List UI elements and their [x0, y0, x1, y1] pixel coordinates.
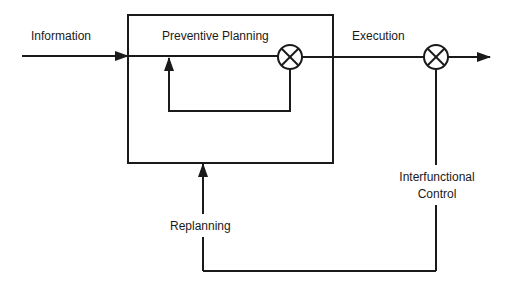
interfunctional-control-label: Interfunctional Control [398, 170, 476, 201]
replanning-label: Replanning [170, 219, 231, 233]
inner-feedback-loop [169, 58, 290, 111]
summing-junction-1-icon [278, 45, 302, 69]
execution-label: Execution [352, 29, 405, 43]
information-label: Information [31, 29, 91, 43]
preventive-planning-label: Preventive Planning [162, 29, 269, 43]
summing-junction-2-icon [424, 45, 448, 69]
diagram-canvas [0, 0, 507, 291]
interfunctional-label-line1: Interfunctional [398, 170, 476, 184]
interfunctional-label-line2: Control [398, 187, 476, 201]
